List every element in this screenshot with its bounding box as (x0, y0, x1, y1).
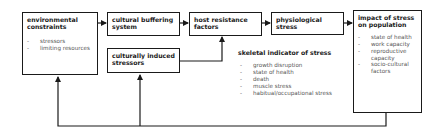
box-culturally-induced-stressors: culturally induced stressors (107, 48, 180, 73)
box-title: impact of stress on population (354, 11, 421, 29)
item-list: stressors limiting resources (23, 38, 97, 52)
skeletal-indicator-title: skeletal indicator of stress (238, 49, 358, 56)
box-title: physiological stress (272, 13, 343, 31)
box-physiological-stress: physiological stress (271, 12, 344, 35)
box-title: environmental constraints (23, 13, 97, 31)
list-item: state of health (358, 34, 417, 41)
list-item: habitual/occupational stress (240, 90, 358, 97)
list-item: socio-cultural factors (358, 61, 417, 75)
box-host-resistance-factors: host resistance factors (189, 12, 262, 36)
item-list: state of health work capacity reproducti… (354, 34, 421, 75)
arrow-induced-to-host (180, 37, 222, 61)
skeletal-indicator-list: growth disruption state of health death … (238, 62, 358, 97)
list-item: state of health (240, 69, 358, 76)
box-title: host resistance factors (190, 13, 261, 31)
box-title: cultural buffering system (108, 13, 179, 31)
list-item: muscle stress (240, 83, 358, 90)
list-item: stressors (27, 38, 93, 45)
box-impact-of-stress: impact of stress on population state of … (353, 10, 422, 113)
box-cultural-buffering-system: cultural buffering system (107, 12, 180, 36)
box-environmental-constraints: environmental constraints stressors limi… (22, 12, 98, 75)
list-item: reproductive capacity (358, 48, 417, 62)
skeletal-indicator-block: skeletal indicator of stress growth disr… (238, 49, 358, 97)
list-item: growth disruption (240, 62, 358, 69)
box-title: culturally induced stressors (108, 49, 179, 67)
list-item: death (240, 76, 358, 83)
list-item: limiting resources (27, 45, 93, 52)
list-item: work capacity (358, 41, 417, 48)
